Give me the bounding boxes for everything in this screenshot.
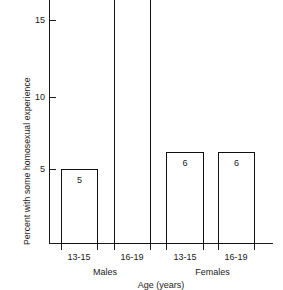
- x-tick-8: [254, 244, 255, 250]
- group-label-females: Females: [185, 267, 240, 277]
- y-tick-15: [50, 20, 56, 21]
- x-tick-7: [218, 244, 219, 250]
- y-tick-label-15: 15: [21, 16, 50, 25]
- x-tick-1: [61, 244, 62, 250]
- x-tick-4: [150, 244, 151, 250]
- x-tick-3: [114, 244, 115, 250]
- y-axis-line: [49, 0, 50, 244]
- x-tick-6: [203, 244, 204, 250]
- bar-value-females-16-19: 6: [218, 159, 255, 168]
- y-tick-5: [50, 169, 56, 170]
- y-tick-label-5: 5: [21, 165, 50, 174]
- x-label-females-16-19: 16-19: [211, 252, 261, 262]
- x-axis-title: Age (years): [49, 280, 273, 290]
- bar-value-females-13-15: 6: [166, 159, 204, 168]
- group-label-males: Males: [80, 267, 130, 277]
- x-tick-5: [166, 244, 167, 250]
- bar-value-males-13-15: 5: [61, 176, 98, 185]
- x-label-males-13-15: 13-15: [54, 252, 104, 262]
- x-label-females-13-15: 13-15: [160, 252, 210, 262]
- x-label-males-16-19: 16-19: [107, 252, 157, 262]
- y-tick-10: [50, 97, 56, 98]
- y-tick-label-10: 10: [21, 93, 50, 102]
- x-tick-2: [97, 244, 98, 250]
- bar-males-16-19: [114, 0, 151, 244]
